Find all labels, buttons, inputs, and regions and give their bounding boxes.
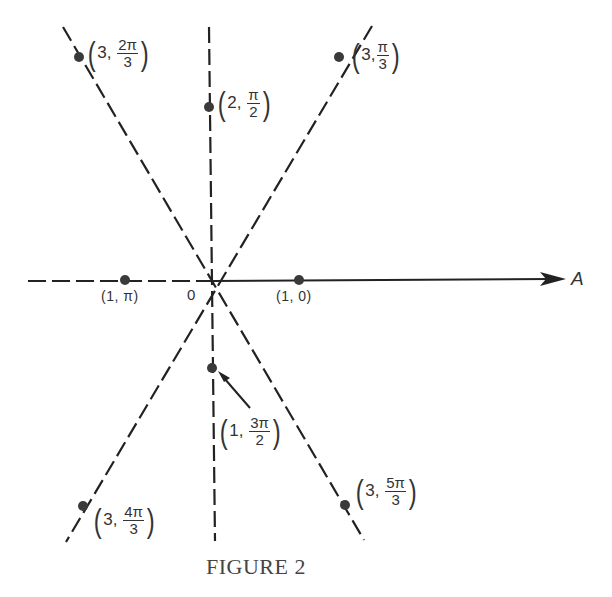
label-point-1-0: (1, 0)	[276, 288, 312, 304]
comma: ,	[375, 481, 384, 501]
paren-open: (	[94, 503, 102, 537]
point-3-2pi-3	[74, 52, 84, 62]
point-3-5pi-3	[340, 500, 350, 510]
label-point-1-pi: (1, π)	[101, 288, 139, 304]
theta-num: 5π	[385, 475, 406, 492]
radius: 3	[365, 481, 374, 501]
theta-num: 2π	[117, 37, 138, 54]
annotation-arrow-line	[224, 378, 250, 408]
point-2-pi-2	[204, 102, 214, 112]
point-3-pi-3	[334, 52, 344, 62]
radius: 3	[97, 43, 106, 63]
theta-fraction: 3π2	[249, 415, 270, 448]
paren-open: (	[220, 414, 228, 448]
radius: 1	[229, 421, 238, 441]
comma: ,	[239, 421, 248, 441]
origin-label: 0	[187, 286, 196, 303]
paren-open: (	[218, 86, 226, 120]
paren-open: (	[88, 36, 96, 70]
theta-num: π	[247, 87, 259, 104]
label-point-3-5pi-3: ( 3, 5π3 )	[354, 474, 418, 508]
label-point-3-2pi-3: ( 3, 2π3 )	[86, 36, 150, 70]
theta-den: 3	[390, 492, 400, 508]
line-theta-2pi-over-3	[63, 27, 364, 540]
theta-den: 3	[128, 521, 138, 537]
theta-num: π	[377, 39, 389, 56]
comma: ,	[237, 93, 246, 113]
theta-fraction: π3	[377, 39, 389, 72]
theta-num: 3π	[249, 415, 270, 432]
paren-close: )	[409, 474, 417, 508]
label-point-3-pi-3: ( 3, π3 )	[350, 38, 401, 72]
comma: ,	[113, 510, 122, 530]
label-point-1-3pi-2: ( 1, 3π2 )	[218, 414, 282, 448]
theta-den: 3	[122, 54, 132, 70]
point-3-4pi-3	[78, 501, 88, 511]
theta-fraction: 2π3	[117, 37, 138, 70]
polar-axis-positive	[212, 279, 552, 281]
radius: 3	[361, 45, 370, 65]
point-1-3pi-2	[207, 363, 217, 373]
paren-close: )	[262, 86, 270, 120]
theta-fraction: 4π3	[123, 504, 144, 537]
comma: ,	[371, 45, 376, 65]
theta-num: 4π	[123, 504, 144, 521]
point-1-pi	[120, 275, 130, 285]
theta-fraction: 5π3	[385, 475, 406, 508]
comma: ,	[107, 43, 116, 63]
paren-open: (	[352, 38, 360, 72]
radius: 3	[103, 510, 112, 530]
figure-caption: FIGURE 2	[206, 554, 306, 580]
label-point-2-pi-2: ( 2, π2 )	[216, 86, 272, 120]
polar-axis-label: A	[571, 268, 584, 290]
theta-fraction: π2	[247, 87, 259, 120]
theta-den: 2	[254, 432, 264, 448]
annotation-arrowhead	[218, 371, 230, 382]
label-point-3-4pi-3: ( 3, 4π3 )	[92, 503, 156, 537]
theta-den: 3	[378, 56, 388, 72]
paren-close: )	[141, 36, 149, 70]
paren-close: )	[273, 414, 281, 448]
theta-den: 2	[248, 104, 258, 120]
point-1-0	[294, 275, 304, 285]
paren-close: )	[392, 38, 400, 72]
paren-close: )	[147, 503, 155, 537]
paren-open: (	[356, 474, 364, 508]
radius: 2	[227, 93, 236, 113]
